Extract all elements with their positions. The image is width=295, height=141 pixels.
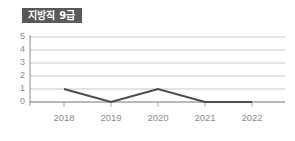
gridlines	[30, 37, 285, 102]
line-chart-svg: 5 4 3 2 1 0 2018 2019 2020	[0, 30, 295, 141]
plot-area: 5 4 3 2 1 0 2018 2019 2020	[0, 30, 295, 141]
chart-figure: 지방직 9급 5 4 3 2 1 0	[0, 0, 295, 141]
y-tick-label-0: 0	[20, 96, 25, 106]
chart-title-badge: 지방직 9급	[22, 8, 82, 23]
series-line-group	[64, 89, 252, 102]
y-tick-label-2: 2	[20, 70, 25, 80]
x-tick-label-2022: 2022	[241, 112, 262, 123]
y-tick-label-4: 4	[20, 44, 25, 54]
y-tick-label-5: 5	[20, 31, 25, 41]
x-tick-label-2020: 2020	[147, 112, 168, 123]
y-tick-label-3: 3	[20, 57, 25, 67]
y-tick-label-1: 1	[20, 83, 25, 93]
x-tick-label-2019: 2019	[100, 112, 121, 123]
series-line-local-gov-level9	[64, 89, 252, 102]
x-tick-label-2018: 2018	[53, 112, 74, 123]
y-tick-labels: 5 4 3 2 1 0	[20, 31, 25, 106]
x-tick-label-2021: 2021	[194, 112, 215, 123]
x-tick-labels: 2018 2019 2020 2021 2022	[53, 112, 262, 123]
